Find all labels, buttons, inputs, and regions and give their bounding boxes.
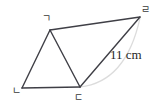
vertex-label-n: ㄴ bbox=[12, 86, 21, 96]
vertex-label-g: ㄱ bbox=[42, 14, 51, 24]
edge-g-r bbox=[50, 17, 140, 30]
measurement-label: 11 cm bbox=[110, 48, 142, 61]
vertex-label-r: ㄹ bbox=[141, 5, 150, 15]
edge-n-d bbox=[22, 87, 80, 88]
edge-g-n bbox=[22, 30, 50, 88]
geometry-figure: ㄱ ㄴ ㄷ ㄹ 11 cm bbox=[0, 0, 158, 112]
edge-g-d bbox=[50, 30, 80, 87]
vertex-label-d: ㄷ bbox=[74, 93, 83, 103]
